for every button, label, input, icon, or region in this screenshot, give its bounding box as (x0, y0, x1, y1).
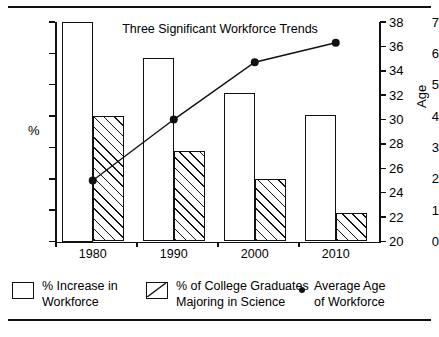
y-axis-right-tick (380, 216, 386, 218)
legend-label: Average Ageof Workforce (314, 279, 385, 310)
y-axis-right-tick (380, 241, 386, 243)
bar-college-graduates (93, 116, 124, 241)
y-axis-left-line (55, 22, 57, 243)
y-axis-right-tick (380, 192, 386, 194)
chart-figure: Three Significant Workforce Trends % Age… (0, 0, 439, 337)
y-axis-right-line (379, 22, 381, 243)
x-axis-tick-label: 1990 (144, 248, 204, 261)
legend-label: % Increase inWorkforce (42, 279, 118, 310)
y-axis-left-tick (49, 115, 55, 117)
top-divider-rule (8, 6, 431, 8)
bar-college-graduates (255, 179, 286, 242)
legend-label-line2: Workforce (42, 295, 118, 311)
legend-label-line1: % Increase in (42, 279, 118, 295)
y-axis-right-tick (380, 94, 386, 96)
y-axis-right-tick-label: 22 (389, 211, 419, 224)
y-axis-left-tick (49, 84, 55, 86)
y-axis-left-label: % (28, 123, 40, 138)
bar-college-graduates (174, 151, 205, 242)
y-axis-left-tick (49, 209, 55, 211)
legend-label: % of College GraduatesMajoring in Scienc… (176, 279, 309, 310)
y-axis-left-tick (49, 147, 55, 149)
legend-swatch-hatched-square (146, 282, 168, 299)
legend-swatch-open-square (12, 282, 34, 299)
legend-label-line1: Average Age (314, 279, 385, 295)
x-axis-tick-label: 1980 (63, 248, 123, 261)
y-axis-left-tick (49, 21, 55, 23)
y-axis-right-tick (380, 119, 386, 121)
y-axis-left-tick (49, 178, 55, 180)
average-age-line (93, 43, 336, 181)
average-age-data-point (332, 39, 340, 47)
bottom-divider-rule (8, 319, 431, 321)
y-axis-right-tick-label: 38 (389, 16, 419, 29)
y-axis-left-tick (49, 53, 55, 55)
y-axis-right-tick (380, 168, 386, 170)
legend-swatch-dot (299, 287, 305, 293)
y-axis-right-tick-label: 20 (389, 235, 419, 248)
x-axis-tick-label: 2000 (225, 248, 285, 261)
y-axis-right-tick (380, 46, 386, 48)
bar-increase-workforce (143, 58, 174, 241)
y-axis-right-tick-label: 26 (389, 162, 419, 175)
chart-legend: % Increase inWorkforce% of College Gradu… (12, 279, 427, 313)
average-age-data-point (251, 58, 259, 66)
y-axis-right-tick-label: 28 (389, 137, 419, 150)
y-axis-right-tick-label: 36 (389, 40, 419, 53)
x-axis-tick (136, 242, 138, 247)
x-axis-tick (55, 242, 57, 247)
bar-increase-workforce (62, 22, 93, 242)
bar-increase-workforce (305, 115, 336, 242)
y-axis-right-tick (380, 21, 386, 23)
x-axis-tick (217, 242, 219, 247)
y-axis-right-tick (380, 143, 386, 145)
y-axis-right-tick-label: 34 (389, 64, 419, 77)
bar-college-graduates (336, 213, 367, 241)
legend-label-line1: % of College Graduates (176, 279, 309, 295)
y-axis-right-tick-label: 24 (389, 186, 419, 199)
legend-label-line2: Majoring in Science (176, 295, 309, 311)
x-axis-tick-label: 2010 (306, 248, 366, 261)
x-axis-tick (298, 242, 300, 247)
y-axis-right-tick (380, 70, 386, 72)
bar-increase-workforce (224, 93, 255, 242)
y-axis-right-tick-label: 30 (389, 113, 419, 126)
legend-label-line2: of Workforce (314, 295, 385, 311)
y-axis-right-tick-label: 32 (389, 89, 419, 102)
chart-title: Three Significant Workforce Trends (105, 22, 335, 36)
